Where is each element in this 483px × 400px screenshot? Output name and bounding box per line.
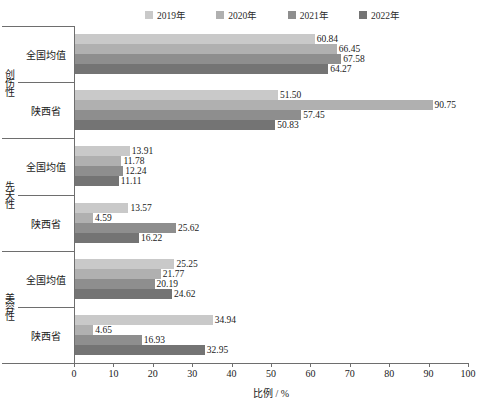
bar-group-item: 32.95 [75, 345, 469, 355]
legend-swatch-icon [216, 11, 224, 19]
bar[interactable] [75, 120, 275, 130]
bar[interactable] [75, 166, 123, 176]
y-axis-separator [18, 82, 74, 83]
bar[interactable] [75, 345, 205, 355]
bar-group-item: 21.77 [75, 269, 469, 279]
bar-value-label: 16.22 [139, 233, 162, 243]
legend-item-2022年[interactable]: 2022年 [359, 8, 400, 22]
bar-group-item: 50.83 [75, 120, 469, 130]
y-axis-group-label: 创伤性 [2, 26, 16, 138]
y-axis-sublabel: 全国均值 [18, 159, 74, 174]
bar-group-item: 4.65 [75, 325, 469, 335]
bar-chart: 2019年2020年2021年2022年 60.8466.4567.5864.2… [0, 0, 483, 400]
x-axis-tick [153, 363, 154, 367]
y-axis-sublabel: 全国均值 [18, 272, 74, 287]
bar-group-item: 11.11 [75, 176, 469, 186]
legend-label: 2019年 [157, 8, 186, 22]
bar-value-label: 57.45 [301, 110, 324, 120]
bar[interactable] [75, 90, 278, 100]
y-axis-group-label: 美容性 [2, 251, 16, 363]
bar[interactable] [75, 335, 142, 345]
bar-group-item: 57.45 [75, 110, 469, 120]
x-axis-tick [271, 363, 272, 367]
bar-group-item: 13.91 [75, 146, 469, 156]
bar-value-label: 21.77 [161, 269, 184, 279]
x-axis-tick [350, 363, 351, 367]
bar-group-item: 67.58 [75, 54, 469, 64]
y-axis-sublabel: 陕西省 [18, 328, 74, 343]
x-axis-tick-label: 10 [98, 368, 128, 379]
x-axis-tick [310, 363, 311, 367]
bar[interactable] [75, 34, 315, 44]
legend-item-2019年[interactable]: 2019年 [145, 8, 186, 22]
bar-value-label: 16.93 [142, 335, 165, 345]
y-axis-group-separator [2, 363, 74, 364]
x-axis-tick [468, 363, 469, 367]
bar[interactable] [75, 64, 328, 74]
bar-value-label: 4.65 [93, 325, 112, 335]
legend-label: 2021年 [300, 8, 329, 22]
legend-swatch-icon [145, 11, 153, 19]
bar-value-label: 20.19 [155, 279, 178, 289]
bar[interactable] [75, 223, 176, 233]
bar-group-item: 12.24 [75, 166, 469, 176]
bar[interactable] [75, 279, 155, 289]
bar-group-item: 4.59 [75, 213, 469, 223]
bar[interactable] [75, 203, 128, 213]
x-axis-tick [389, 363, 390, 367]
bar-group-item: 20.19 [75, 279, 469, 289]
bar[interactable] [75, 100, 433, 110]
plot-area: 60.8466.4567.5864.2751.5090.7557.4550.83… [74, 26, 468, 363]
bar[interactable] [75, 54, 341, 64]
legend-label: 2020年 [228, 8, 257, 22]
y-axis-sublabel: 陕西省 [18, 216, 74, 231]
bar-group-item: 13.57 [75, 203, 469, 213]
bar-value-label: 32.95 [205, 345, 228, 355]
bar-value-label: 25.62 [176, 223, 199, 233]
x-axis-tick-label: 60 [295, 368, 325, 379]
bar-group-item: 51.50 [75, 90, 469, 100]
bar[interactable] [75, 269, 161, 279]
y-axis-group-separator [2, 26, 74, 27]
bar[interactable] [75, 110, 301, 120]
bar[interactable] [75, 233, 139, 243]
bar-group-item: 60.84 [75, 34, 469, 44]
x-axis-tick-label: 50 [256, 368, 286, 379]
x-axis-tick-label: 0 [59, 368, 89, 379]
bar-group-item: 16.93 [75, 335, 469, 345]
bar-value-label: 67.58 [341, 54, 364, 64]
bar-group-item: 90.75 [75, 100, 469, 110]
bar[interactable] [75, 176, 119, 186]
bar-group-item: 24.62 [75, 289, 469, 299]
bar-value-label: 50.83 [275, 120, 298, 130]
bar[interactable] [75, 156, 121, 166]
bar[interactable] [75, 259, 174, 269]
bar[interactable] [75, 44, 337, 54]
bar[interactable] [75, 146, 130, 156]
bar[interactable] [75, 289, 172, 299]
legend-item-2021年[interactable]: 2021年 [288, 8, 329, 22]
x-axis-tick [429, 363, 430, 367]
bar-group-item: 34.94 [75, 315, 469, 325]
y-axis-separator [18, 195, 74, 196]
bar-value-label: 25.25 [174, 259, 197, 269]
x-axis-tick-label: 80 [374, 368, 404, 379]
bar-value-label: 11.11 [119, 176, 142, 186]
bar-value-label: 60.84 [315, 34, 338, 44]
x-axis: 比例 / % 0102030405060708090100 [74, 363, 468, 400]
y-axis-separator [18, 307, 74, 308]
bar[interactable] [75, 315, 213, 325]
bar-group-item: 25.25 [75, 259, 469, 269]
bar-group-item: 64.27 [75, 64, 469, 74]
y-axis-group-label: 先天性 [2, 138, 16, 250]
y-axis-sublabel: 全国均值 [18, 47, 74, 62]
legend-item-2020年[interactable]: 2020年 [216, 8, 257, 22]
bar[interactable] [75, 213, 93, 223]
bar[interactable] [75, 325, 93, 335]
bar-group-item: 16.22 [75, 233, 469, 243]
bar-value-label: 11.78 [121, 156, 144, 166]
legend-swatch-icon [359, 11, 367, 19]
x-axis-title: 比例 / % [74, 385, 468, 400]
bar-value-label: 66.45 [337, 44, 360, 54]
bar-value-label: 90.75 [433, 100, 456, 110]
